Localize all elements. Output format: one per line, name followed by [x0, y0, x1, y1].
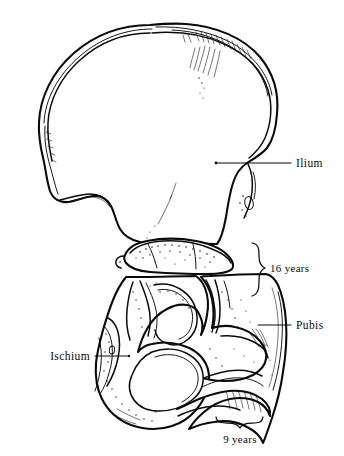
- ischium-label: Ischium: [50, 350, 90, 362]
- sixteen-years-label: 16 years: [270, 262, 309, 274]
- ilium-label: Ilium: [296, 157, 323, 169]
- anatomical-figure: Ilium 16 years Pubis Ischium 9 years: [0, 0, 344, 456]
- ilium-leader-dot: [215, 162, 218, 165]
- hip-bone-illustration: Ilium 16 years Pubis Ischium 9 years: [0, 0, 344, 456]
- ischium-leader-dot: [128, 355, 130, 357]
- pubis-label: Pubis: [296, 319, 324, 331]
- nine-years-label: 9 years: [223, 433, 257, 445]
